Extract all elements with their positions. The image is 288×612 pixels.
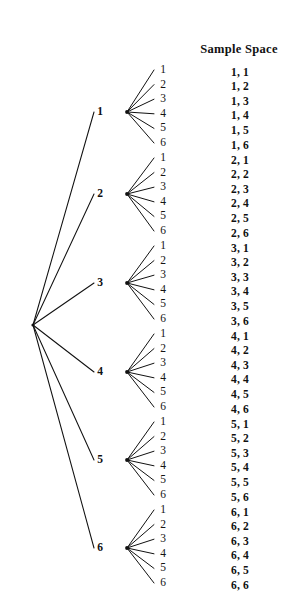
second-level-label: 2 (160, 343, 166, 355)
second-level-label: 2 (160, 431, 166, 443)
fan-branch-line (127, 85, 154, 112)
second-level-label: 3 (160, 357, 166, 369)
second-level-label: 3 (160, 181, 166, 193)
sample-space-outcome: 5, 1 (231, 419, 249, 431)
sample-space-heading: Sample Space (200, 43, 278, 56)
sample-space-outcome: 2, 1 (231, 155, 249, 167)
sample-space-outcome: 3, 1 (231, 243, 249, 255)
trunk-branch-line (33, 283, 94, 325)
second-level-label: 6 (160, 489, 166, 501)
fan-node-dot (125, 192, 129, 196)
fan-branch-line (127, 334, 154, 372)
sample-space-outcome: 2, 3 (231, 184, 249, 196)
second-level-label: 6 (160, 225, 166, 237)
fan-branch-line (127, 510, 154, 548)
second-level-label: 1 (160, 64, 166, 76)
trunk-branch-group (33, 112, 94, 548)
second-level-label: 4 (160, 108, 166, 120)
second-level-label: 6 (160, 401, 166, 413)
sample-space-outcome: 6, 4 (231, 550, 249, 562)
second-level-label: 1 (160, 328, 166, 340)
sample-space-outcome: 2, 2 (231, 169, 249, 181)
sample-space-outcome: 4, 6 (231, 404, 249, 416)
fan-branch-line (127, 437, 154, 460)
first-level-label: 6 (97, 542, 103, 554)
sample-space-outcome: 5, 2 (231, 433, 249, 445)
second-level-label: 2 (160, 167, 166, 179)
second-level-label: 4 (160, 460, 166, 472)
second-level-label: 5 (160, 123, 166, 135)
second-level-label: 2 (160, 519, 166, 531)
fan-branch-line (127, 349, 154, 372)
second-level-label: 6 (160, 577, 166, 589)
sample-space-outcome: 3, 3 (231, 272, 249, 284)
fan-branch-line (127, 112, 154, 143)
sample-space-outcome: 4, 2 (231, 345, 249, 357)
sample-space-outcome: 1, 3 (231, 96, 249, 108)
fan-node-dot (125, 546, 129, 550)
second-level-label: 3 (160, 445, 166, 457)
fan-node-dot (125, 281, 129, 285)
fan-node-dot (125, 370, 129, 374)
second-level-label: 1 (160, 152, 166, 164)
sample-space-outcome: 5, 3 (231, 448, 249, 460)
sample-space-outcome: 5, 5 (231, 477, 249, 489)
second-level-label: 3 (160, 93, 166, 105)
sample-space-outcome: 1, 4 (231, 110, 249, 122)
second-level-label: 3 (160, 269, 166, 281)
sample-space-outcome: 2, 5 (231, 213, 249, 225)
sample-space-outcome: 3, 2 (231, 257, 249, 269)
first-level-label: 4 (97, 366, 103, 378)
sample-space-outcome: 3, 5 (231, 301, 249, 313)
node-dot-group (31, 110, 128, 550)
second-level-label: 5 (160, 211, 166, 223)
sample-space-outcome: 4, 3 (231, 360, 249, 372)
sample-space-outcome: 1, 5 (231, 125, 249, 137)
sample-space-outcome: 3, 4 (231, 286, 249, 298)
second-level-label: 1 (160, 504, 166, 516)
fan-node-dot (125, 458, 129, 462)
second-level-label: 4 (160, 548, 166, 560)
sample-space-outcome: 4, 5 (231, 389, 249, 401)
sample-space-outcome: 1, 2 (231, 81, 249, 93)
trunk-branch-line (33, 325, 94, 372)
second-level-label: 5 (160, 387, 166, 399)
root-node-dot (31, 323, 34, 326)
sample-space-outcome: 6, 2 (231, 521, 249, 533)
sample-space-outcome: 3, 6 (231, 316, 249, 328)
trunk-branch-line (33, 112, 94, 325)
sample-space-outcome: 4, 4 (231, 374, 249, 386)
first-level-label: 3 (97, 277, 103, 289)
second-level-label: 5 (160, 475, 166, 487)
fan-node-dot (125, 110, 129, 114)
second-level-label: 6 (160, 313, 166, 325)
fan-branch-line (127, 112, 154, 128)
second-level-label: 4 (160, 372, 166, 384)
first-level-label: 5 (97, 454, 103, 466)
sample-space-outcome: 6, 1 (231, 507, 249, 519)
second-level-label: 4 (160, 196, 166, 208)
sample-space-outcome: 2, 4 (231, 198, 249, 210)
trunk-branch-line (33, 325, 94, 548)
second-level-label: 6 (160, 137, 166, 149)
fan-branch-line (127, 539, 154, 548)
second-level-label: 1 (160, 240, 166, 252)
second-level-label: 4 (160, 284, 166, 296)
second-level-label: 2 (160, 255, 166, 267)
sample-space-outcome: 6, 5 (231, 565, 249, 577)
second-level-label: 1 (160, 416, 166, 428)
first-level-label: 2 (97, 188, 103, 200)
sample-space-outcome: 1, 6 (231, 140, 249, 152)
sample-space-outcome: 5, 6 (231, 492, 249, 504)
sample-space-outcome: 4, 1 (231, 331, 249, 343)
second-level-label: 5 (160, 563, 166, 575)
first-level-label: 1 (97, 106, 103, 118)
sample-space-outcome: 6, 6 (231, 580, 249, 592)
trunk-branch-line (33, 194, 94, 325)
sample-space-outcome: 1, 1 (231, 67, 249, 79)
tree-diagram-figure: Sample Space 123456 12345612345612345612… (0, 0, 288, 612)
second-level-label: 3 (160, 533, 166, 545)
second-level-label: 5 (160, 299, 166, 311)
fan-branch-line (127, 422, 154, 460)
fan-branch-line (127, 525, 154, 548)
